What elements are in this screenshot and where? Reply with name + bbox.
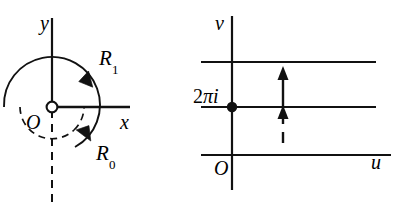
right-panel-w-plane: v u O 2πi xyxy=(201,0,402,212)
u-axis-label: u xyxy=(371,152,381,172)
outer-arc-arrowhead xyxy=(78,69,97,87)
left-panel-z-plane: y x O R1 R0 xyxy=(0,0,201,212)
marked-point-label: 2πi xyxy=(193,86,219,106)
inner-arc-label: R0 xyxy=(96,143,115,167)
inner-arc-label-letter: R xyxy=(96,141,109,165)
origin-open-circle-marker xyxy=(47,102,58,113)
right-panel-canvas xyxy=(201,0,402,212)
outer-arc-label: R1 xyxy=(99,48,118,72)
imaginary-unit-symbol: i xyxy=(213,85,219,107)
origin-label-w-plane: O xyxy=(214,158,228,178)
marked-point-coefficient: 2 xyxy=(193,85,203,107)
outer-arc-label-subscript: 1 xyxy=(112,62,119,77)
x-axis-label: x xyxy=(120,112,129,132)
left-panel-canvas xyxy=(0,0,201,212)
inner-arc-R0-upper xyxy=(74,107,84,130)
origin-label: O xyxy=(26,112,40,132)
math-figure: y x O R1 R0 v u O xyxy=(0,0,402,212)
long-up-arrow-head xyxy=(278,66,289,80)
marked-point-dot xyxy=(227,102,237,112)
outer-arc-label-letter: R xyxy=(99,46,112,70)
v-axis-label: v xyxy=(215,13,224,33)
pi-symbol: π xyxy=(203,85,213,107)
y-axis-label: y xyxy=(40,13,49,33)
inner-arc-label-subscript: 0 xyxy=(109,157,116,172)
